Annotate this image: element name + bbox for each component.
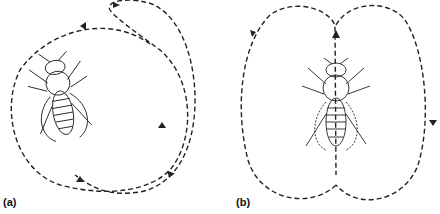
arrow-icon [158,122,166,128]
panel-a [11,0,195,193]
waggle-dance-path [241,6,425,200]
bee-icon [302,58,370,150]
panel-a-label: (a) [3,196,16,208]
round-dance-path [11,0,195,193]
arrow-icon [429,120,437,126]
arrow-icon [113,2,120,8]
arrow-icon [80,22,86,30]
bee-dance-diagram [0,0,440,214]
panel-b [241,6,437,200]
arrow-icon [332,30,340,38]
panel-b-label: (b) [236,196,250,208]
arrow-icon [165,171,175,179]
bee-icon [23,46,98,144]
